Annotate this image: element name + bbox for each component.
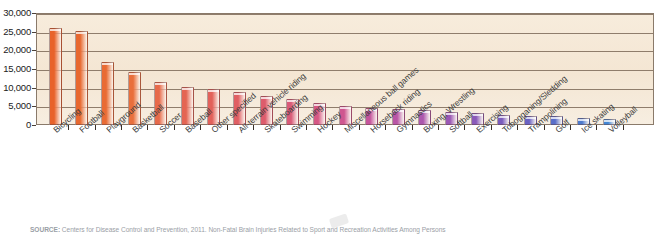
bar-highlight <box>182 88 193 90</box>
chart-figure: 30,00025,00020,00015,00010,0005,0000 Bic… <box>0 0 662 236</box>
x-axis-labels: BicyclingFootballPlaygroundBasketballSoc… <box>0 126 662 218</box>
source-text: Centers for Disease Control and Preventi… <box>60 226 445 233</box>
y-tick-label: 15,000 <box>3 64 31 74</box>
y-tick-label: 10,000 <box>3 83 31 93</box>
bar-highlight <box>129 73 140 75</box>
source-note: SOURCE: Centers for Disease Control and … <box>30 226 446 233</box>
bar-highlight <box>76 32 87 34</box>
source-label: SOURCE: <box>30 226 60 233</box>
y-tick-label: 30,000 <box>3 8 31 18</box>
bar-highlight <box>340 107 351 109</box>
y-axis: 30,00025,00020,00015,00010,0005,0000 <box>0 0 36 139</box>
bar-highlight <box>50 29 61 31</box>
bar-highlight <box>155 83 166 85</box>
y-tick-label: 20,000 <box>3 45 31 55</box>
bar <box>49 28 62 125</box>
bar-highlight <box>234 93 245 95</box>
y-tick-label: 5,000 <box>8 101 31 111</box>
y-tick-label: 25,000 <box>3 27 31 37</box>
bar-highlight <box>102 63 113 65</box>
bar-highlight <box>208 90 219 92</box>
